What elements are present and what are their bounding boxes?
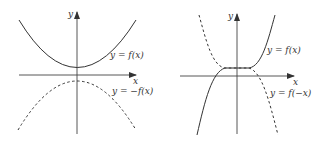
right-panel: y x y = f(x) y = f(−x) xyxy=(180,11,312,135)
left-label-neg-f: y = −f(x) xyxy=(111,86,154,96)
right-x-label: x xyxy=(293,77,298,87)
right-curve-f-neg-x xyxy=(199,15,278,135)
right-y-label: y xyxy=(227,11,234,21)
left-x-label: x xyxy=(133,76,138,86)
right-label-f: y = f(x) xyxy=(266,45,301,55)
right-curve-f xyxy=(197,15,275,135)
left-y-label: y xyxy=(67,9,74,19)
left-curve-f xyxy=(19,20,136,68)
reflection-diagram: y x y = f(x) y = −f(x) y x y = f(x) y = … xyxy=(0,0,313,142)
left-panel: y x y = f(x) y = −f(x) xyxy=(18,9,154,134)
right-label-f-neg-x: y = f(−x) xyxy=(269,88,312,98)
left-label-f: y = f(x) xyxy=(109,50,144,60)
